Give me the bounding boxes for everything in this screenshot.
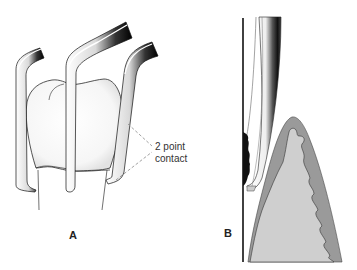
dental-figure	[0, 0, 357, 270]
panel-a	[16, 22, 158, 210]
panel-b	[243, 17, 342, 262]
annotation-line-1: 2 point	[155, 141, 187, 153]
panel-a-label: A	[69, 229, 77, 241]
two-point-contact-label: 2 point contact	[155, 141, 187, 165]
annotation-line-2: contact	[155, 153, 187, 165]
panel-b-label: B	[224, 227, 232, 239]
calculus	[243, 132, 250, 186]
